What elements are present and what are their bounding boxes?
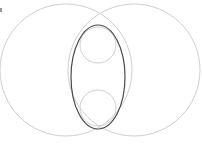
diagram-canvas xyxy=(0,0,202,145)
edge-mark xyxy=(0,8,2,12)
central-ellipse xyxy=(71,25,125,129)
top-small-circle xyxy=(80,27,116,63)
right-large-circle xyxy=(68,4,200,136)
vesica-diagram xyxy=(0,0,202,145)
bottom-small-circle xyxy=(80,90,116,126)
left-large-circle xyxy=(0,4,132,136)
